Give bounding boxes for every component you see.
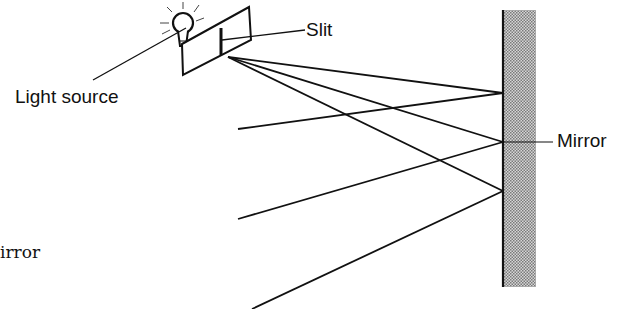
light-source-leader-line	[93, 28, 186, 80]
mirror-reflection-diagram: Slit Light source Mirror irror	[0, 0, 623, 309]
incident-ray-1	[228, 57, 503, 93]
caption-fragment: irror	[0, 242, 40, 262]
mirror-label: Mirror	[557, 130, 607, 152]
reflected-rays	[238, 93, 503, 309]
mirror	[503, 10, 536, 287]
diagram-canvas	[0, 0, 623, 309]
slit-label: Slit	[306, 19, 332, 41]
mirror-backing	[504, 10, 536, 287]
light-source-label: Light source	[15, 86, 119, 108]
reflected-ray-1	[238, 93, 503, 129]
reflected-ray-2	[238, 142, 503, 219]
reflected-ray-3	[252, 191, 503, 309]
